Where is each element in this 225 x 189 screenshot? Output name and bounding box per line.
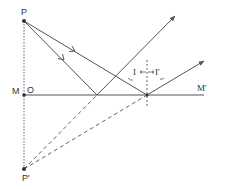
reflected-ray-1 [97,16,175,95]
label-angle-i-prime: I' [155,68,160,77]
label-p-image: P' [22,174,30,183]
label-p: P [21,8,27,17]
point-o [22,93,26,97]
point-p-image [22,167,26,171]
angle-arc-i [128,78,133,80]
label-angle-i: I [133,68,136,77]
label-m-prime: M' [197,84,207,93]
angle-arc-i-prime [160,78,164,79]
label-m: M [12,87,20,96]
point-reflect-2 [146,94,149,97]
point-p [22,19,26,23]
label-o: O [27,86,34,95]
